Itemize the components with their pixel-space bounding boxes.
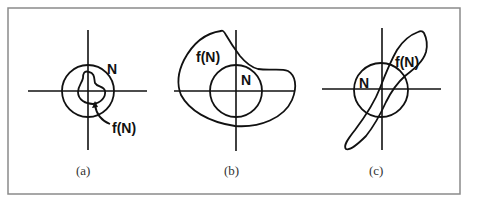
figure: N f(N) (a) f(N) N (b) N f(N) (c) bbox=[0, 0, 482, 202]
image-fn-label: f(N) bbox=[112, 120, 136, 136]
image-fn-blob bbox=[78, 71, 105, 104]
caption-b: (b) bbox=[224, 163, 239, 178]
panel-c: N f(N) (c) bbox=[322, 28, 441, 178]
caption-a: (a) bbox=[76, 163, 90, 178]
panel-a: N f(N) (a) bbox=[28, 30, 147, 178]
set-n-label: N bbox=[359, 75, 369, 91]
image-fn-blob bbox=[345, 31, 427, 149]
set-n-label: N bbox=[241, 72, 251, 88]
image-fn-label: f(N) bbox=[196, 49, 220, 65]
set-n-label: N bbox=[107, 61, 117, 77]
caption-c: (c) bbox=[369, 163, 383, 178]
image-fn-blob bbox=[179, 31, 296, 127]
panel-b: f(N) N (b) bbox=[174, 30, 295, 178]
image-fn-label: f(N) bbox=[395, 54, 419, 70]
